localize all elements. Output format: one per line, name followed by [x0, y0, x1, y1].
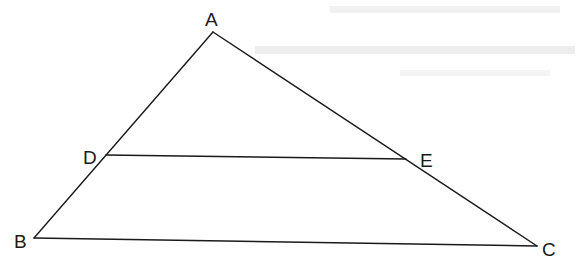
side-bc: [34, 238, 537, 246]
triangle-diagram: A D E B C: [0, 0, 583, 277]
segment-de: [106, 155, 406, 159]
vertex-label-c: C: [542, 239, 556, 260]
vertex-label-b: B: [14, 231, 27, 252]
point-label-e: E: [420, 150, 433, 171]
side-ac: [213, 32, 537, 246]
side-ab: [34, 32, 213, 238]
point-label-d: D: [83, 147, 97, 168]
vertex-label-a: A: [205, 9, 218, 30]
show-through-text: [255, 6, 575, 76]
